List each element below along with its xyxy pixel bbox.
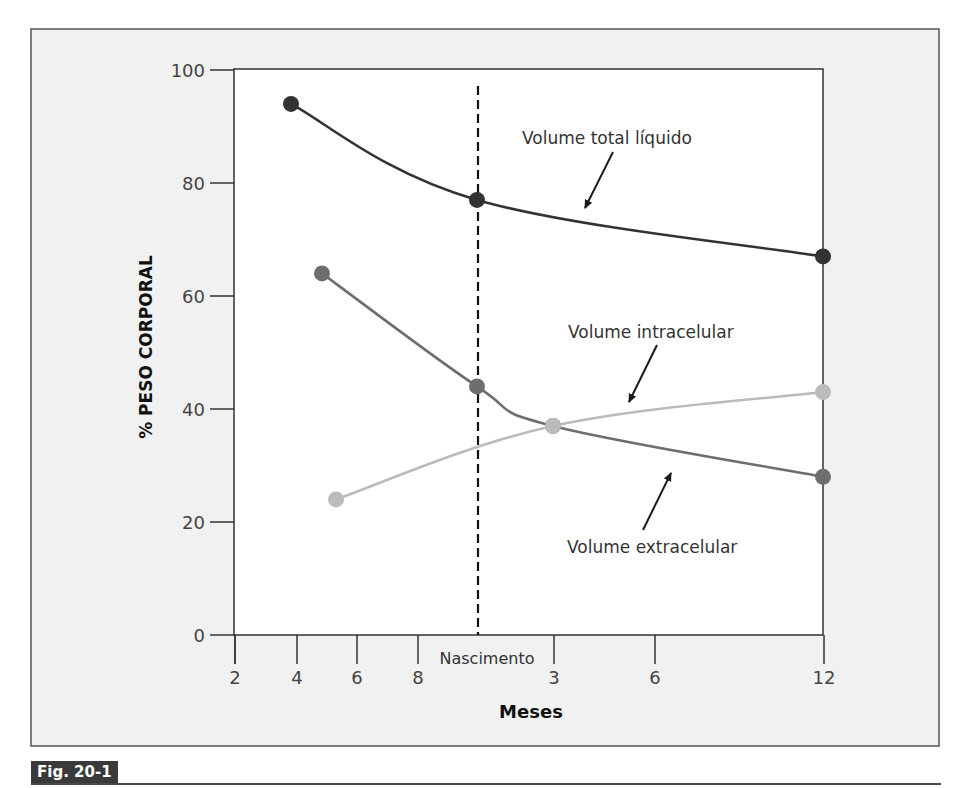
chart: 020406080100 24683612 Nascimento Volume … (0, 0, 970, 788)
data-point (815, 248, 831, 264)
y-tick-label: 80 (182, 173, 205, 194)
y-axis-title: % PESO CORPORAL (136, 255, 156, 439)
birth-label: Nascimento (440, 649, 535, 668)
x-tick-label: 12 (813, 667, 836, 688)
x-tick-label: 3 (548, 667, 559, 688)
annotation-label: Volume intracelular (568, 322, 734, 342)
x-tick-label: 2 (229, 667, 240, 688)
y-tick-label: 40 (182, 399, 205, 420)
annotation-label: Volume extracelular (567, 537, 737, 557)
data-point (469, 378, 485, 394)
data-point (815, 469, 831, 485)
y-tick-label: 60 (182, 286, 205, 307)
data-point (314, 265, 330, 281)
data-point (545, 418, 561, 434)
x-axis-title: Meses (499, 701, 563, 722)
data-point (283, 96, 299, 112)
x-tick-label: 4 (291, 667, 302, 688)
x-tick-label: 6 (351, 667, 362, 688)
data-point (469, 192, 485, 208)
annotation-label: Volume total líquido (522, 128, 692, 148)
figure-caption-label: Fig. 20-1 (31, 761, 118, 784)
y-tick-label: 100 (171, 60, 205, 81)
x-tick-label: 8 (412, 667, 423, 688)
x-tick-label: 6 (649, 667, 660, 688)
y-tick-label: 20 (182, 512, 205, 533)
data-point (815, 384, 831, 400)
data-point (328, 491, 344, 507)
y-tick-label: 0 (194, 625, 205, 646)
caption-rule (31, 783, 941, 785)
